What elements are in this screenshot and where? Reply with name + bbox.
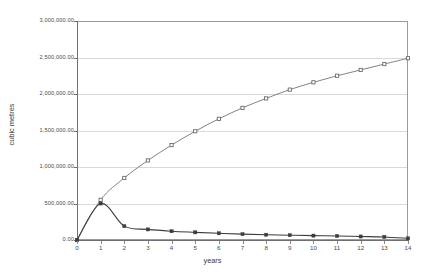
data-point-marker [359, 235, 362, 238]
x-axis-title: years [0, 256, 425, 265]
x-tick-mark [172, 241, 173, 244]
y-axis-title: cubic metres [7, 80, 16, 170]
data-point-marker [170, 230, 173, 233]
data-point-marker [194, 231, 197, 234]
x-tick-label: 0 [65, 244, 89, 251]
data-point-marker [217, 117, 220, 120]
data-point-marker [265, 97, 268, 100]
data-point-marker [288, 88, 291, 91]
series-annual [75, 202, 409, 242]
x-tick-label: 14 [396, 244, 420, 251]
data-point-marker [288, 234, 291, 237]
x-tick-mark [101, 241, 102, 244]
data-point-marker [265, 233, 268, 236]
x-tick-label: 10 [301, 244, 325, 251]
x-tick-mark [337, 241, 338, 244]
data-point-marker [123, 176, 126, 179]
data-point-marker [383, 235, 386, 238]
data-series-layer [0, 0, 425, 274]
data-point-marker [217, 232, 220, 235]
x-tick-label: 11 [325, 244, 349, 251]
x-tick-label: 13 [372, 244, 396, 251]
x-tick-label: 4 [160, 244, 184, 251]
data-point-marker [312, 81, 315, 84]
data-point-marker [99, 198, 102, 201]
x-tick-label: 9 [278, 244, 302, 251]
chart-container: 0.00500,000.001,000,000.001,500,000.002,… [0, 0, 425, 274]
data-point-marker [241, 106, 244, 109]
x-tick-mark [290, 241, 291, 244]
data-point-marker [383, 62, 386, 65]
x-tick-label: 6 [207, 244, 231, 251]
x-tick-mark [313, 241, 314, 244]
data-point-marker [312, 234, 315, 237]
x-tick-label: 5 [183, 244, 207, 251]
series-line [77, 58, 408, 240]
x-tick-mark [361, 241, 362, 244]
data-point-marker [359, 68, 362, 71]
data-point-marker [194, 130, 197, 133]
x-tick-label: 1 [89, 244, 113, 251]
x-tick-mark [148, 241, 149, 244]
x-tick-label: 12 [349, 244, 373, 251]
data-point-marker [335, 234, 338, 237]
x-tick-label: 8 [254, 244, 278, 251]
data-point-marker [123, 225, 126, 228]
data-point-marker [170, 144, 173, 147]
x-tick-label: 3 [136, 244, 160, 251]
x-tick-mark [124, 241, 125, 244]
x-tick-mark [408, 241, 409, 244]
x-tick-mark [266, 241, 267, 244]
data-point-marker [335, 74, 338, 77]
data-point-marker [146, 228, 149, 231]
x-tick-mark [77, 241, 78, 244]
data-point-marker [406, 57, 409, 60]
series-cumulative [75, 57, 409, 242]
data-point-marker [241, 233, 244, 236]
x-tick-mark [219, 241, 220, 244]
x-tick-mark [384, 241, 385, 244]
x-tick-label: 2 [112, 244, 136, 251]
x-tick-label: 7 [231, 244, 255, 251]
data-point-marker [406, 237, 409, 240]
x-tick-mark [195, 241, 196, 244]
data-point-marker [99, 202, 102, 205]
x-tick-mark [243, 241, 244, 244]
data-point-marker [146, 159, 149, 162]
